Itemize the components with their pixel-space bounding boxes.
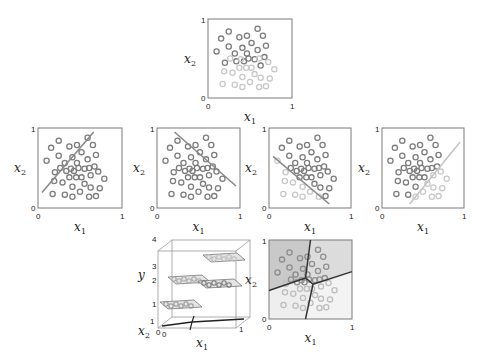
data-point: [320, 142, 325, 147]
y-tick-4: 4: [152, 235, 157, 244]
data-point: [163, 158, 168, 163]
y-axis-label-sub: 2: [140, 168, 145, 177]
data-point: [413, 155, 418, 160]
x-axis-label: x: [304, 220, 311, 234]
data-point: [102, 176, 107, 181]
x1-axis-label-sub: 1: [203, 343, 208, 352]
data-point: [309, 150, 314, 155]
data-point: [188, 184, 193, 189]
x-tick-min: 0: [267, 323, 272, 332]
data-point: [196, 189, 201, 194]
data-point: [433, 142, 438, 147]
data-point: [282, 178, 287, 183]
data-point: [300, 194, 305, 199]
data-point: [304, 175, 309, 180]
data-point: [436, 152, 441, 157]
data-point: [309, 175, 314, 180]
data-point: [188, 155, 193, 160]
y-axis-label: x: [245, 273, 252, 287]
data-point: [281, 191, 286, 196]
data-point: [219, 36, 224, 41]
y-axis-label: x: [133, 161, 140, 175]
data-point: [62, 192, 67, 197]
data-point: [240, 74, 245, 79]
data-point: [206, 185, 211, 190]
data-point: [287, 153, 292, 158]
floor-boundary: [190, 322, 192, 330]
data-point: [44, 158, 49, 163]
x-tick-max: 1: [349, 212, 354, 221]
x-axis-label-sub: 1: [311, 227, 316, 236]
y-axis-label-sub: 2: [191, 59, 196, 68]
data-point: [287, 138, 292, 143]
data-point: [179, 180, 184, 185]
data-point: [50, 191, 55, 196]
x-axis-label: x: [244, 110, 251, 124]
cube-edge: [158, 317, 172, 328]
data-point: [410, 144, 415, 149]
data-point: [76, 165, 81, 170]
data-point: [255, 26, 260, 31]
data-point: [181, 192, 186, 197]
x-axis-label-sub: 1: [312, 338, 317, 347]
x-axis-label: x: [193, 220, 200, 234]
x-tick-min: 0: [206, 102, 211, 111]
data-point: [258, 63, 263, 68]
x-axis-label-sub: 1: [200, 227, 205, 236]
data-point: [422, 150, 427, 155]
data-point: [176, 165, 181, 170]
data-point: [170, 178, 175, 183]
data-point: [304, 142, 309, 147]
data-point: [212, 193, 217, 198]
data-point: [171, 170, 176, 175]
data-point: [403, 180, 408, 185]
data-point: [315, 157, 320, 162]
y-tick-max: 1: [150, 125, 155, 134]
data-point: [193, 142, 198, 147]
data-point: [70, 194, 75, 199]
data-point: [279, 145, 284, 150]
data-point: [200, 181, 205, 186]
data-point: [85, 157, 90, 162]
data-point: [272, 67, 277, 72]
data-point: [266, 59, 271, 64]
data-point: [392, 145, 397, 150]
decision-boundary-line: [273, 156, 329, 204]
y-tick-max: 1: [201, 16, 206, 25]
x-tick-max: 1: [290, 102, 295, 111]
x-tick-max: 1: [462, 212, 467, 221]
panel-linear-split-2: 1001x1x2: [133, 125, 243, 236]
data-point: [431, 185, 436, 190]
floor-boundary: [162, 319, 244, 326]
y-axis-label-sub: 2: [21, 168, 26, 177]
data-point: [212, 152, 217, 157]
x-axis-label: x: [74, 220, 81, 234]
data-point: [417, 142, 422, 147]
x1-axis-label: x: [196, 336, 203, 350]
data-point: [175, 153, 180, 158]
y-axis-label-sub: 2: [365, 168, 370, 177]
data-point: [206, 173, 211, 178]
y-axis-label: x: [358, 161, 365, 175]
data-point: [327, 186, 332, 191]
data-point: [306, 165, 311, 170]
data-point: [257, 84, 262, 89]
y-axis-label-sub: 2: [252, 280, 257, 289]
data-point: [185, 175, 190, 180]
panel-3d-stacked-regions: 12341001yx1x2: [137, 235, 250, 352]
data-point: [97, 186, 102, 191]
y-tick-3: 3: [152, 262, 157, 271]
data-point: [413, 184, 418, 189]
x2-tick-0: 0: [156, 328, 161, 337]
x2-axis-label: x: [138, 324, 145, 338]
panel-linear-split-1: 1001x1x2: [14, 125, 125, 236]
x-tick-max: 1: [238, 212, 243, 221]
data-point: [188, 194, 193, 199]
data-point: [396, 170, 401, 175]
data-point: [74, 142, 79, 147]
x-axis-label: x: [417, 220, 424, 234]
data-point: [440, 186, 445, 191]
x-tick-min: 0: [155, 212, 160, 221]
data-point: [267, 76, 272, 81]
data-point: [232, 51, 237, 56]
